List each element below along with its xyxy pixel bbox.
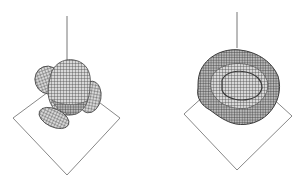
figure-svg xyxy=(0,0,308,183)
left-panel xyxy=(13,16,120,175)
figure-container xyxy=(0,0,308,183)
right-isosurface xyxy=(198,50,280,125)
right-panel xyxy=(184,12,292,170)
